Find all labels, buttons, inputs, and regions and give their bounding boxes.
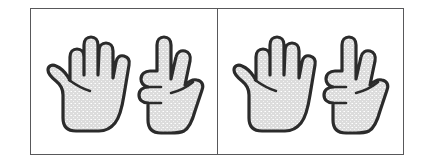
figure-frame bbox=[30, 8, 404, 155]
hand-two-fingers-icon bbox=[312, 23, 396, 139]
illustration-canvas bbox=[0, 0, 424, 162]
hand-open-five-fingers-icon bbox=[43, 23, 135, 139]
hand-two-fingers-icon bbox=[127, 23, 211, 139]
left-panel bbox=[31, 9, 218, 154]
hand-open-five-fingers-icon bbox=[229, 23, 321, 139]
right-panel bbox=[218, 9, 403, 154]
